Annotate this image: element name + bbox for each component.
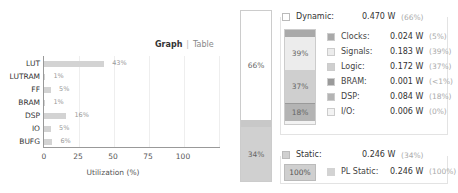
legend-swatch-icon [327,78,335,86]
bar-row-dsp: DSP16% [0,110,230,121]
bar-row-io: IO5% [0,123,230,134]
bar-row-bram: BRAM1% [0,97,230,108]
utilization-bar[interactable] [44,74,45,80]
bar-row-ff: FF5% [0,84,230,95]
category-label: LUT [26,58,40,69]
legend-value: 0.084 W [390,91,423,103]
value-label: 43% [112,58,126,69]
x-tick: 25 [73,152,83,161]
legend-row-bram: BRAM:0.001 W(<1%) [327,76,452,88]
view-toggle: Graph | Table [155,40,214,49]
category-label: LUTRAM [10,71,40,82]
x-tick: 0 [42,152,47,161]
legend-value: 0.172 W [390,61,423,73]
static-label: Static: [296,150,322,159]
legend-swatch-icon [327,63,335,71]
value-label: 16% [74,110,88,121]
legend-value: 0.001 W [390,76,423,88]
x-tick: 50 [108,152,118,161]
signals-segment: 39% [285,37,315,70]
dynamic-value: 0.470 W [362,12,395,21]
legend-label: Clocks: [341,31,370,43]
value-label: 6% [60,136,70,147]
static-value: 0.246 W [362,150,395,159]
legend-label: Signals: [341,46,372,58]
x-axis-label: Utilization (%) [43,168,183,177]
graph-tab[interactable]: Graph [155,40,182,49]
total-divider-strip [241,120,271,127]
value-label: 5% [59,84,69,95]
bar-row-bufg: BUFG6% [0,136,230,147]
legend-swatch-icon [327,48,335,56]
category-label: DSP [25,110,40,121]
total-dynamic-segment: 66% [241,11,271,120]
x-tick: 100 [176,152,190,161]
category-label: BRAM [18,97,40,108]
x-tick: 75 [143,152,153,161]
utilization-bar[interactable] [44,61,104,67]
legend-label: DSP: [341,91,360,103]
dynamic-pct: (66%) [401,13,424,22]
utilization-bar[interactable] [44,87,51,93]
legend-pct: (100%) [429,166,456,178]
value-label: 1% [53,97,63,108]
utilization-bar[interactable] [44,126,51,132]
dynamic-swatch-icon [282,13,290,21]
legend-label: Logic: [341,61,365,73]
value-label: 5% [59,123,69,134]
legend-pct: (<1%) [429,76,453,88]
utilization-bar[interactable] [44,113,66,119]
pl-static-bar: 100% [284,164,316,181]
dynamic-label: Dynamic: [296,12,334,21]
bar-row-lut: LUT43% [0,58,230,69]
legend-pct: (39%) [429,46,452,58]
utilization-bar[interactable] [44,100,45,106]
static-header: Static: [282,150,326,159]
legend-row-io: I/O:0.006 W(0%) [327,106,452,118]
legend-value: 0.006 W [390,106,423,118]
value-label: 1% [53,71,63,82]
bar-row-lutram: LUTRAM1% [0,71,230,82]
legend-swatch-icon [327,33,335,41]
x-axis-label-wrap: Utilization (%) [0,168,230,177]
legend-value: 0.183 W [390,46,423,58]
legend-label: PL Static: [341,166,378,178]
utilization-bar[interactable] [44,139,52,145]
legend-pct: (37%) [429,61,452,73]
total-static-segment: 34% [241,127,271,181]
logic-segment: 37% [285,70,315,103]
legend-row-logic: Logic:0.172 W(37%) [327,61,452,73]
legend-label: BRAM: [341,76,367,88]
total-power-bar: 66% 34% [240,10,272,182]
legend-row-clocks: Clocks:0.024 W(5%) [327,31,452,43]
legend-label: I/O: [341,106,355,118]
category-label: IO [32,123,40,134]
io-segment [285,121,315,124]
utilization-panel: Graph | Table LUT43%LUTRAM1%FF5%BRAM1%DS… [0,0,230,193]
legend-pct: (18%) [429,91,452,103]
legend-value: 0.246 W [390,166,423,178]
pl-static-swatch-icon [327,168,335,176]
legend-pct: (5%) [429,31,447,43]
category-label: FF [31,84,40,95]
legend-value: 0.024 W [390,31,423,43]
legend-swatch-icon [327,93,335,101]
toggle-separator: | [186,40,189,49]
dsp-segment: 18% [285,104,315,121]
legend-pct: (0%) [429,106,447,118]
static-swatch-icon [282,151,290,159]
legend-row-dsp: DSP:0.084 W(18%) [327,91,452,103]
legend-swatch-icon [327,108,335,116]
legend-row-signals: Signals:0.183 W(39%) [327,46,452,58]
dynamic-header: Dynamic: [282,12,338,21]
clocks-segment [285,30,315,37]
legend-row-pl-static: PL Static: 0.246 W (100%) [327,166,452,178]
static-pct: (34%) [401,151,424,160]
table-tab[interactable]: Table [193,40,214,49]
category-label: BUFG [19,136,40,147]
dynamic-stack-bar: 39% 37% 18% [284,29,316,125]
